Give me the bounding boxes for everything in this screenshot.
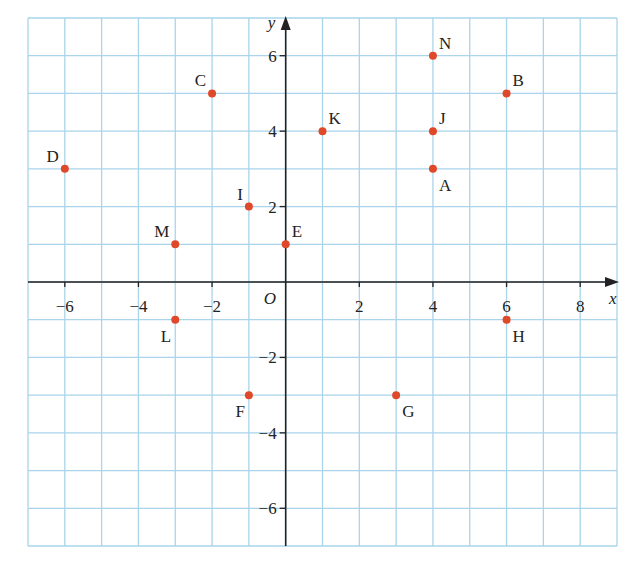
- point-label-j: J: [439, 109, 446, 128]
- point-d: [61, 165, 69, 173]
- x-tick-label: −6: [56, 297, 74, 316]
- point-j: [429, 127, 437, 135]
- point-h: [503, 316, 511, 324]
- point-l: [171, 316, 179, 324]
- x-tick-label: 8: [576, 297, 585, 316]
- point-n: [429, 52, 437, 60]
- y-axis-label: y: [266, 13, 276, 32]
- y-tick-label: 4: [268, 122, 277, 141]
- point-c: [208, 89, 216, 97]
- x-tick-label: −2: [203, 297, 221, 316]
- point-label-g: G: [402, 402, 414, 421]
- point-label-m: M: [154, 222, 169, 241]
- point-label-b: B: [513, 71, 524, 90]
- point-label-i: I: [237, 185, 243, 204]
- point-e: [282, 240, 290, 248]
- origin-label: O: [264, 289, 276, 308]
- coordinate-grid-chart: xyO −6−4−22468−6−4−2246 ABCDEFGHIJKLMN: [0, 0, 643, 575]
- point-i: [245, 203, 253, 211]
- point-label-a: A: [439, 176, 452, 195]
- y-tick-label: 2: [268, 198, 277, 217]
- point-label-c: C: [195, 71, 206, 90]
- point-b: [503, 89, 511, 97]
- x-tick-label: 2: [355, 297, 364, 316]
- y-tick-label: −2: [259, 348, 277, 367]
- point-label-d: D: [47, 147, 59, 166]
- point-a: [429, 165, 437, 173]
- point-m: [171, 240, 179, 248]
- point-label-f: F: [235, 402, 244, 421]
- y-tick-label: −4: [259, 424, 278, 443]
- point-label-k: K: [329, 109, 342, 128]
- x-tick-label: 4: [429, 297, 438, 316]
- point-label-e: E: [292, 222, 302, 241]
- point-f: [245, 391, 253, 399]
- x-tick-label: −4: [129, 297, 148, 316]
- point-label-n: N: [439, 34, 451, 53]
- x-tick-label: 6: [502, 297, 511, 316]
- point-label-h: H: [513, 327, 525, 346]
- y-tick-label: −6: [259, 499, 277, 518]
- x-axis-label: x: [608, 289, 617, 308]
- point-label-l: L: [161, 327, 171, 346]
- y-tick-label: 6: [268, 47, 277, 66]
- point-k: [319, 127, 327, 135]
- point-g: [392, 391, 400, 399]
